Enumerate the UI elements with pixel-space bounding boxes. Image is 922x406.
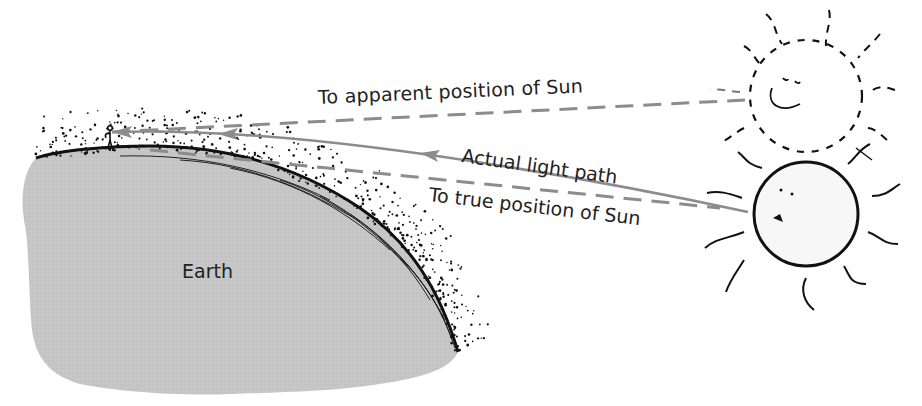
apparent-sun-line xyxy=(112,100,745,132)
earth-body xyxy=(23,146,459,395)
apparent-sun xyxy=(710,10,895,152)
earth xyxy=(23,146,459,395)
true-sun xyxy=(705,144,900,310)
earth-label: Earth xyxy=(182,260,233,282)
